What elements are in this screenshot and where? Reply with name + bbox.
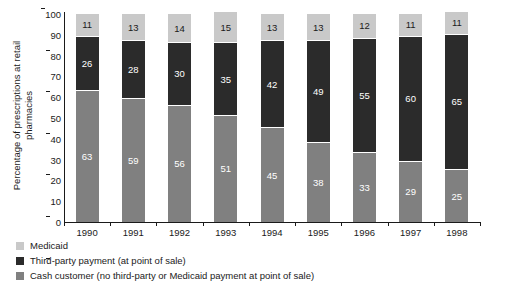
y-axis-tick-label: 50: [50, 113, 61, 124]
bar-segment-value: 60: [405, 93, 416, 104]
bar-segment-value: 38: [313, 177, 324, 188]
x-axis-tick-mark: [434, 222, 435, 226]
bar-segment[interactable]: 14: [168, 14, 191, 43]
legend-item[interactable]: Third-party payment (at point of sale): [16, 253, 314, 268]
legend-swatch: [16, 272, 24, 280]
bar-stack[interactable]: 563014: [168, 14, 191, 222]
bar-segment-value: 63: [82, 151, 93, 162]
bar-segment[interactable]: 13: [307, 14, 330, 41]
bar-segment[interactable]: 15: [214, 12, 237, 43]
bar-segment-value: 15: [220, 22, 231, 33]
bar-segment-value: 28: [128, 64, 139, 75]
x-axis-tick-label: 1990: [77, 227, 98, 238]
bar-segment-value: 33: [359, 182, 370, 193]
bar-stack[interactable]: 256511: [445, 14, 468, 222]
bar-stack[interactable]: 632611: [76, 14, 99, 222]
x-axis-tick-mark: [156, 222, 157, 226]
legend-item[interactable]: Cash customer (no third-party or Medicai…: [16, 268, 314, 283]
bar-segment[interactable]: 13: [261, 14, 284, 41]
bar-segment[interactable]: 35: [214, 43, 237, 116]
bar-segment-value: 13: [313, 22, 324, 33]
bar-segment[interactable]: 11: [76, 14, 99, 37]
legend-item[interactable]: Medicaid: [16, 238, 314, 253]
bar-segment[interactable]: 13: [122, 14, 145, 41]
legend-item-label: Third-party payment (at point of sale): [30, 255, 186, 266]
x-axis-tick-mark: [341, 222, 342, 226]
y-axis-tick-label: 30: [50, 154, 61, 165]
y-axis-title: Percentage of prescriptions at retail ph…: [11, 8, 34, 224]
bar-segment[interactable]: 25: [445, 170, 468, 222]
x-axis-tick-label: 1997: [400, 227, 421, 238]
bar-segment[interactable]: 29: [399, 162, 422, 222]
bar-segment-value: 12: [359, 20, 370, 31]
bar-segment[interactable]: 59: [122, 99, 145, 222]
legend-item-label: Medicaid: [30, 240, 68, 251]
x-axis-tick-mark: [110, 222, 111, 226]
bar-segment-value: 49: [313, 86, 324, 97]
bar-segment-value: 42: [267, 79, 278, 90]
y-axis-tick-mark: [41, 8, 45, 9]
bar-segment-value: 26: [82, 58, 93, 69]
y-axis-tick-label: 80: [50, 50, 61, 61]
bar-segment-value: 13: [128, 22, 139, 33]
bar-segment[interactable]: 55: [353, 39, 376, 153]
bar-stack[interactable]: 454213: [261, 14, 284, 222]
bar-segment[interactable]: 38: [307, 143, 330, 222]
y-axis-title-line-2: pharmacies: [22, 8, 34, 224]
bar-segment[interactable]: 65: [445, 35, 468, 170]
bar-segment-value: 11: [452, 17, 462, 28]
bar-segment[interactable]: 33: [353, 153, 376, 222]
chart-legend: MedicaidThird-party payment (at point of…: [16, 238, 314, 283]
y-axis-tick-label: 70: [50, 71, 61, 82]
y-axis-tick-label: 90: [50, 29, 61, 40]
x-axis-tick-label: 1994: [261, 227, 282, 238]
bar-segment-value: 25: [452, 191, 463, 202]
bar-segment[interactable]: 45: [261, 128, 284, 222]
stacked-bar-chart: Percentage of prescriptions at retail ph…: [0, 0, 507, 284]
bar-segment[interactable]: 26: [76, 37, 99, 91]
bar-segment[interactable]: 63: [76, 91, 99, 222]
x-axis-tick-label: 1996: [354, 227, 375, 238]
y-axis-tick-label: 10: [50, 196, 61, 207]
plot-area: 0102030405060708090100632611592813563014…: [64, 14, 480, 222]
bar-segment[interactable]: 42: [261, 41, 284, 128]
x-axis-tick-mark: [480, 222, 481, 226]
bar-stack[interactable]: 513515: [214, 14, 237, 222]
bar-segment[interactable]: 12: [353, 14, 376, 39]
bar-segment-value: 45: [267, 170, 278, 181]
legend-swatch: [16, 242, 24, 250]
bar-segment-value: 11: [82, 19, 92, 30]
bar-segment[interactable]: 56: [168, 106, 191, 222]
bar-segment[interactable]: 28: [122, 41, 145, 99]
legend-swatch: [16, 257, 24, 265]
x-axis-tick-label: 1995: [308, 227, 329, 238]
bar-segment-value: 30: [174, 68, 185, 79]
bar-segment-value: 56: [174, 158, 185, 169]
bar-segment[interactable]: 49: [307, 41, 330, 143]
bar-segment[interactable]: 30: [168, 43, 191, 105]
x-axis-tick-mark: [64, 222, 65, 226]
x-axis-tick-mark: [295, 222, 296, 226]
bar-segment-value: 59: [128, 155, 139, 166]
bar-segment-value: 14: [174, 23, 185, 34]
bar-segment[interactable]: 11: [399, 14, 422, 37]
x-axis-line: [64, 222, 481, 223]
bar-stack[interactable]: 384913: [307, 14, 330, 222]
bar-segment[interactable]: 11: [445, 12, 468, 35]
bar-stack[interactable]: 592813: [122, 14, 145, 222]
y-axis-tick-label: 100: [45, 9, 61, 20]
bar-stack[interactable]: 335512: [353, 14, 376, 222]
bar-segment-value: 55: [359, 90, 370, 101]
legend-item-label: Cash customer (no third-party or Medicai…: [30, 270, 314, 281]
x-axis-tick-label: 1993: [215, 227, 236, 238]
x-axis-tick-mark: [203, 222, 204, 226]
y-axis-tick-label: 0: [56, 217, 61, 228]
y-axis-tick-label: 60: [50, 92, 61, 103]
bar-segment[interactable]: 51: [214, 116, 237, 222]
bar-segment-value: 29: [405, 186, 416, 197]
y-axis-tick-label: 40: [50, 133, 61, 144]
bar-segment[interactable]: 60: [399, 37, 422, 162]
y-axis-title-line-1: Percentage of prescriptions at retail: [11, 8, 23, 224]
bar-stack[interactable]: 296011: [399, 14, 422, 222]
bar-segment-value: 35: [220, 74, 231, 85]
